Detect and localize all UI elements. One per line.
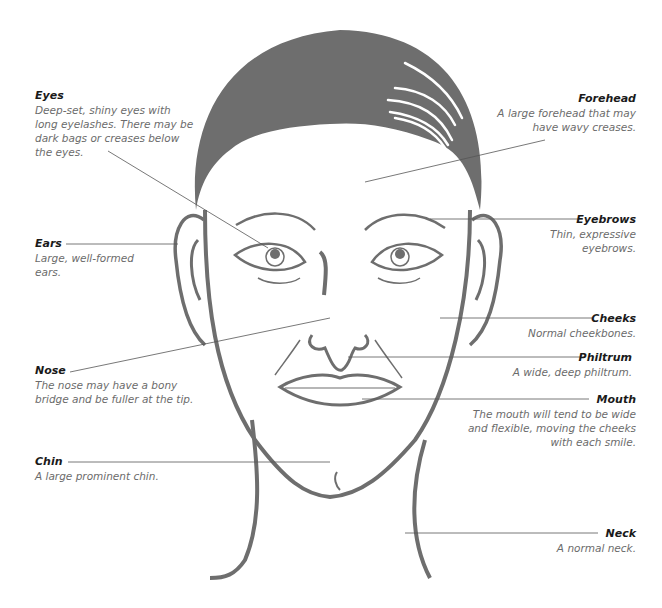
label-neck: Neck A normal neck. [516,527,636,555]
philtrum-title: Philtrum [482,351,632,365]
philtrum-desc: A wide, deep philtrum. [482,365,632,379]
left-ear [175,216,205,345]
eyebrows-desc: Thin, expressive eyebrows. [536,227,636,255]
label-ears: Ears Large, well-formed ears. [35,237,145,279]
left-eye [235,244,305,270]
chin-desc: A large prominent chin. [35,469,195,483]
ears-desc: Large, well-formed ears. [35,251,145,279]
eyes-title: Eyes [35,89,195,103]
forehead-title: Forehead [476,92,636,106]
right-eye [372,244,442,270]
face-diagram: Eyes Deep-set, shiny eyes with long eyel… [0,0,662,608]
forehead-desc: A large forehead that may have wavy crea… [476,106,636,134]
nose-tip [310,335,368,370]
label-philtrum: Philtrum A wide, deep philtrum. [482,351,632,379]
left-eyebrow [236,214,315,230]
mouth-title: Mouth [466,393,636,407]
neck-left [210,420,257,578]
cheeks-title: Cheeks [486,312,636,326]
right-eyebrow [365,215,445,230]
face-outline [205,210,470,497]
label-eyes: Eyes Deep-set, shiny eyes with long eyel… [35,89,195,159]
cheeks-desc: Normal cheekbones. [486,326,636,340]
label-chin: Chin A large prominent chin. [35,455,195,483]
label-cheeks: Cheeks Normal cheekbones. [486,312,636,340]
mouth [280,375,400,405]
label-forehead: Forehead A large forehead that may have … [476,92,636,134]
ears-title: Ears [35,237,145,251]
nose-desc: The nose may have a bony bridge and be f… [35,378,195,406]
eyes-desc: Deep-set, shiny eyes with long eyelashes… [35,103,195,159]
neck-desc: A normal neck. [516,541,636,555]
nose-title: Nose [35,364,195,378]
mouth-desc: The mouth will tend to be wide and flexi… [466,407,636,449]
label-eyebrows: Eyebrows Thin, expressive eyebrows. [536,213,636,255]
chin-title: Chin [35,455,195,469]
nose-bridge [320,252,326,295]
neck-title: Neck [516,527,636,541]
label-mouth: Mouth The mouth will tend to be wide and… [466,393,636,449]
eyebrows-title: Eyebrows [536,213,636,227]
neck-right [414,440,430,578]
label-nose: Nose The nose may have a bony bridge and… [35,364,195,406]
